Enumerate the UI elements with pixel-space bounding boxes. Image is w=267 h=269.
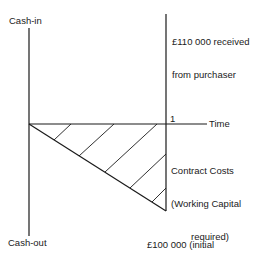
time-axis-label: Time (209, 118, 230, 129)
cash-out-label: Cash-out (8, 237, 47, 248)
time-end-tick-label: 1 (170, 113, 175, 124)
working-capital-hatching (54, 124, 166, 202)
cost-line (29, 124, 166, 211)
investment-annotation: £100 000 (initial investment) £0 to £100… (147, 217, 235, 269)
received-annotation: £110 000 received from purchaser (172, 14, 249, 91)
cash-in-label: Cash-in (9, 15, 42, 26)
